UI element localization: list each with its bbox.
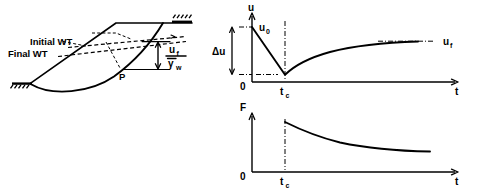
- pore-pressure-chart-panel: u t 0 u 0 Δu u f t c: [212, 2, 459, 99]
- tc-subscript-lower: c: [286, 182, 290, 189]
- origin-label-upper: 0: [240, 81, 246, 92]
- head-denominator-subscript: w: [175, 64, 182, 71]
- crest-ground-symbol: [172, 15, 192, 23]
- f-axis-label: F: [240, 102, 246, 113]
- u-axis-label: u: [248, 2, 254, 13]
- u0-label: u: [259, 22, 265, 33]
- vertical-dashed-line-above-p: [106, 42, 120, 68]
- t-axis-label-upper: t: [455, 86, 459, 97]
- slope-cross-section-panel: Initial WT Final WT P u f γ w: [8, 15, 192, 92]
- head-denominator-label: γ: [168, 58, 174, 69]
- uf-label: u: [443, 36, 449, 47]
- final-wt-label: Final WT: [8, 48, 48, 59]
- slip-surface-arc: [31, 23, 163, 92]
- pore-pressure-curve: [252, 27, 418, 75]
- pressure-head-dimension: [155, 42, 160, 69]
- delta-u-label: Δu: [212, 46, 225, 57]
- final-water-table-line: [58, 42, 186, 57]
- point-p-label: P: [119, 71, 126, 82]
- slope-stability-figure: Initial WT Final WT P u f γ w: [0, 0, 479, 190]
- delta-u-dimension: [230, 27, 235, 75]
- tc-subscript-upper: c: [286, 92, 290, 99]
- origin-label-lower: 0: [240, 171, 246, 182]
- toe-ground-symbol: [11, 82, 33, 88]
- tc-label-upper: t: [280, 86, 284, 97]
- head-numerator-label: u: [169, 44, 175, 55]
- uf-subscript: f: [450, 42, 453, 49]
- factor-of-safety-chart-panel: F t 0 t c: [240, 102, 459, 189]
- slope-face-line: [30, 23, 192, 84]
- figure-root: Initial WT Final WT P u f γ w: [0, 0, 479, 190]
- t-axis-label-lower: t: [455, 176, 459, 187]
- u0-subscript: 0: [266, 28, 270, 35]
- initial-wt-label: Initial WT: [30, 36, 72, 47]
- tc-label-lower: t: [280, 176, 284, 187]
- factor-of-safety-curve: [285, 122, 430, 152]
